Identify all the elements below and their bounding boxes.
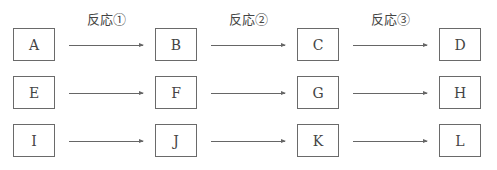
reaction-label-2: 反応② bbox=[213, 9, 283, 28]
node-box: B bbox=[155, 28, 197, 61]
arrow-icon bbox=[353, 93, 427, 94]
node-box: F bbox=[155, 76, 197, 109]
arrow-icon bbox=[211, 141, 285, 142]
reaction-label-3: 反応③ bbox=[355, 9, 425, 28]
arrow-icon bbox=[69, 93, 143, 94]
node-box: L bbox=[439, 124, 481, 157]
node-box: H bbox=[439, 76, 481, 109]
node-box: C bbox=[297, 28, 339, 61]
node-box: I bbox=[13, 124, 55, 157]
arrow-icon bbox=[353, 141, 427, 142]
arrow-icon bbox=[69, 141, 143, 142]
node-box: K bbox=[297, 124, 339, 157]
node-box: J bbox=[155, 124, 197, 157]
arrow-icon bbox=[211, 45, 285, 46]
node-box: E bbox=[13, 76, 55, 109]
reaction-label-1: 反応① bbox=[71, 9, 141, 28]
arrow-icon bbox=[353, 45, 427, 46]
node-box: A bbox=[13, 28, 55, 61]
arrow-icon bbox=[69, 45, 143, 46]
node-box: G bbox=[297, 76, 339, 109]
node-box: D bbox=[439, 28, 481, 61]
arrow-icon bbox=[211, 93, 285, 94]
